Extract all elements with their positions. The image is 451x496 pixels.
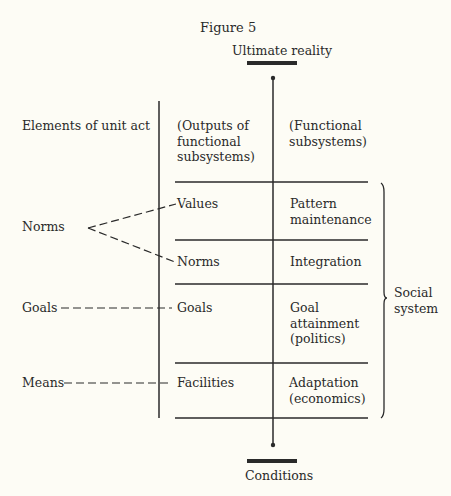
social-system-label: Social system (394, 285, 438, 316)
outputs-header: (Outputs of functional subsystems) (177, 118, 255, 165)
output-goals: Goals (177, 300, 212, 316)
subsystems-header: (Functional subsystems) (289, 118, 367, 149)
output-values: Values (177, 196, 218, 212)
output-facilities: Facilities (177, 375, 234, 391)
conditions-label: Conditions (245, 468, 313, 484)
subsystem-adaptation: Adaptation (economics) (289, 375, 366, 406)
unit-act-goals: Goals (22, 300, 57, 316)
unit-act-norms: Norms (22, 219, 65, 235)
axis-bottom-dot (271, 443, 275, 447)
diagram-lines (0, 0, 451, 496)
subsystem-goal-attainment: Goal attainment (politics) (290, 300, 359, 347)
norms-to-values-connector (88, 204, 176, 228)
unit-act-header: Elements of unit act (22, 118, 150, 134)
subsystem-pattern-maintenance: Pattern maintenance (290, 196, 372, 227)
figure-title: Figure 5 (200, 20, 256, 36)
ultimate-reality-label: Ultimate reality (232, 43, 332, 59)
unit-act-means: Means (22, 375, 64, 391)
conditions-bar (247, 459, 297, 463)
ultimate-reality-bar (247, 61, 297, 65)
social-system-brace (381, 183, 387, 418)
output-norms: Norms (177, 254, 220, 270)
norms-to-norms-connector (88, 228, 175, 262)
subsystem-integration: Integration (290, 254, 361, 270)
